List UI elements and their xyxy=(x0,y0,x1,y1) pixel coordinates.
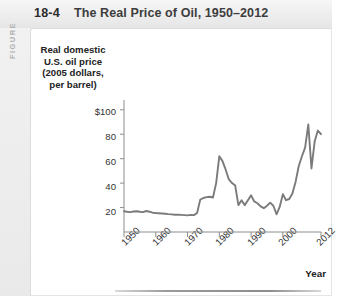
right-margin-fill xyxy=(332,0,344,307)
bottom-margin-fill xyxy=(0,296,344,307)
y-axis-label-line-3: (2005 dollars, xyxy=(27,67,119,79)
y-axis-label-line-1: Real domestic xyxy=(27,44,119,56)
y-tick-label-60: 60 xyxy=(76,156,116,167)
figure-number: 18-4 xyxy=(34,6,60,20)
x-axis-label: Year xyxy=(305,268,326,279)
y-tick-label-100: $100 xyxy=(76,106,116,117)
figure-kicker-label: FIGURE xyxy=(8,15,17,67)
y-axis-label-line-4: per barrel) xyxy=(27,79,119,91)
y-tick-label-20: 20 xyxy=(76,206,116,217)
y-axis-label-line-2: U.S. oil price xyxy=(27,56,119,68)
page-title: The Real Price of Oil, 1950–2012 xyxy=(74,6,268,20)
y-axis-label: Real domestic U.S. oil price (2005 dolla… xyxy=(27,44,119,90)
figure-bottom-rule xyxy=(115,290,321,292)
y-tick-label-40: 40 xyxy=(76,181,116,192)
y-tick-label-80: 80 xyxy=(76,131,116,142)
figure-container: FIGURE 18-4 The Real Price of Oil, 1950–… xyxy=(0,0,344,307)
